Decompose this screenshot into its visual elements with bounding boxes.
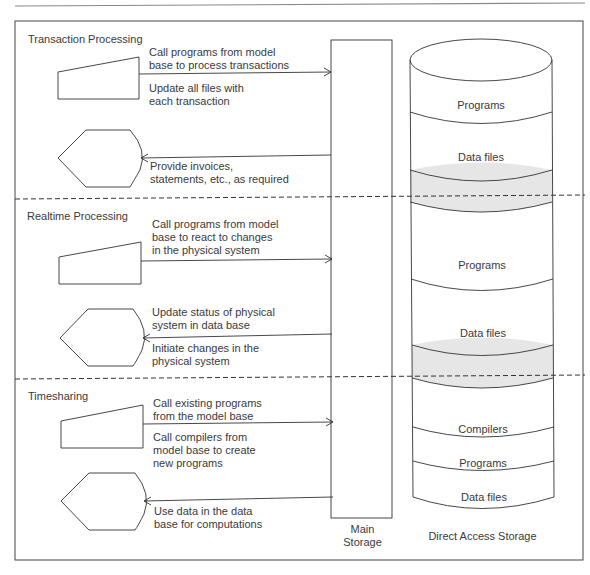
- layer-label-datafiles-2: Data files: [412, 327, 554, 339]
- note-line: Update all files with: [149, 82, 244, 95]
- layer-label-compilers: Compilers: [412, 423, 554, 435]
- diagram-canvas: [0, 0, 590, 575]
- note-s1-input: Call programs from model base to process…: [149, 46, 289, 72]
- note-line: Call programs from model: [152, 218, 279, 231]
- note-line: each transaction: [149, 95, 244, 108]
- note-line: Initiate changes in the: [152, 342, 259, 355]
- arrow-output-1: [141, 155, 331, 158]
- arrow-output-3: [144, 497, 333, 501]
- note-line: physical system: [152, 355, 259, 368]
- top-rule: [15, 3, 585, 6]
- label-line: Main: [331, 523, 394, 536]
- note-s3-input: Call existing programs from the model ba…: [153, 397, 262, 423]
- section-title-transaction: Transaction Processing: [28, 33, 143, 46]
- note-line: Call programs from model: [149, 46, 289, 59]
- note-line: system in data base: [152, 319, 275, 332]
- note-line: new programs: [153, 457, 256, 470]
- note-line: Update status of physical: [152, 306, 275, 319]
- layer-label-programs-2: Programs: [411, 259, 553, 271]
- layer-label-programs-1: Programs: [410, 99, 552, 111]
- manual-input-shape-1: [58, 57, 139, 99]
- note-line: statements, etc., as required: [150, 173, 289, 186]
- layer-label-programs-3: Programs: [412, 457, 554, 469]
- section-title-timesharing: Timesharing: [28, 390, 88, 403]
- note-line: in the physical system: [152, 244, 279, 257]
- note-line: from the model base: [153, 410, 262, 423]
- note-s3-input-below: Call compilers from model base to create…: [153, 431, 256, 470]
- note-line: Use data in the data: [154, 505, 262, 518]
- label-line: Storage: [331, 536, 394, 549]
- manual-input-shape-2: [59, 242, 141, 284]
- note-line: Provide invoices,: [150, 160, 289, 173]
- note-s3-output: Use data in the data base for computatio…: [154, 505, 262, 531]
- note-s2-output: Initiate changes in the physical system: [152, 342, 259, 368]
- note-s2-input: Call programs from model base to react t…: [152, 218, 279, 257]
- note-s1-input-below: Update all files with each transaction: [149, 82, 244, 108]
- manual-input-shape-3: [61, 405, 143, 448]
- arrow-input-2: [141, 259, 332, 261]
- note-line: base for computations: [154, 518, 262, 531]
- arrow-input-1: [139, 72, 331, 74]
- note-s2-output-above: Update status of physical system in data…: [152, 306, 275, 332]
- arrow-output-2: [143, 334, 332, 338]
- display-shape-1: [58, 130, 142, 187]
- note-line: base to react to changes: [152, 231, 279, 244]
- layer-label-datafiles-1: Data files: [410, 151, 552, 163]
- note-line: Call compilers from: [153, 431, 256, 444]
- note-s1-output: Provide invoices, statements, etc., as r…: [150, 160, 289, 186]
- note-line: model base to create: [153, 444, 256, 457]
- layer-label-datafiles-3: Data files: [413, 491, 555, 503]
- note-line: Call existing programs: [153, 397, 262, 410]
- main-storage-label: Main Storage: [331, 523, 394, 549]
- note-line: base to process transactions: [149, 59, 289, 72]
- display-shape-2: [60, 309, 145, 366]
- section-title-realtime: Realtime Processing: [27, 210, 128, 223]
- display-shape-3: [61, 473, 147, 530]
- main-storage-box: [331, 40, 392, 518]
- direct-access-storage-label: Direct Access Storage: [405, 530, 560, 543]
